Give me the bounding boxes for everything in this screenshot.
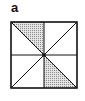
center-dot [42, 53, 46, 57]
square-diagram [0, 0, 85, 101]
